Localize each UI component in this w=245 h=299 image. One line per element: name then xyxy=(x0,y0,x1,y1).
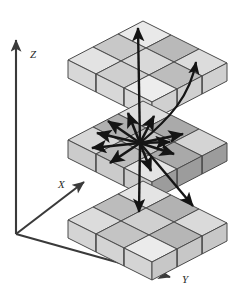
arrow-down-vertical xyxy=(139,143,140,212)
y-axis-label: Y xyxy=(182,273,190,285)
x-axis-label: X xyxy=(57,178,66,190)
z-axis-label: Z xyxy=(30,48,37,60)
bottom-layer xyxy=(68,181,227,280)
arrow-east-near xyxy=(140,142,170,143)
diagram-canvas: Z X Y xyxy=(0,0,245,299)
voxel-neighborhood-figure: Z X Y xyxy=(0,0,245,299)
